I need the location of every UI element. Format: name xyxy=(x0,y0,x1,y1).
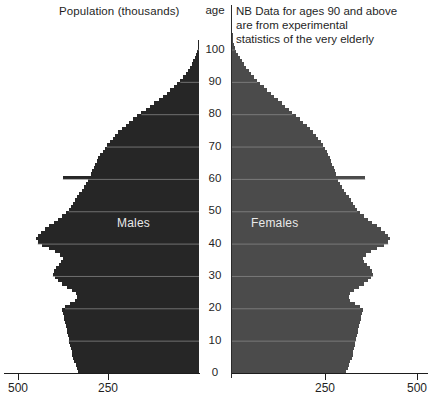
age-tick-80: 80 xyxy=(199,107,231,119)
age-axis-column xyxy=(199,0,231,378)
left-axis-line xyxy=(4,373,200,374)
left-250-label: 250 xyxy=(98,381,118,395)
age-tick-20: 20 xyxy=(199,301,231,313)
age-tick-40: 40 xyxy=(199,237,231,249)
left-250-tick xyxy=(108,374,109,380)
right-500-label: 500 xyxy=(407,381,427,395)
bars-silhouette xyxy=(36,33,199,373)
left-500-label: 500 xyxy=(8,381,28,395)
series-label-females: Females xyxy=(251,216,298,230)
age-axis-header: age xyxy=(199,4,231,16)
age-tick-0: 0 xyxy=(199,366,231,378)
age-tick-90: 90 xyxy=(199,75,231,87)
age-tick-10: 10 xyxy=(199,334,231,346)
females-bars-svg xyxy=(232,5,436,373)
bars-silhouette xyxy=(232,33,390,373)
males-bars-panel xyxy=(0,5,199,373)
age-tick-100: 100 xyxy=(199,43,231,55)
left-500-tick xyxy=(18,374,19,380)
population-pyramid-chart: Population (thousands) NB Data for ages … xyxy=(0,0,436,403)
age-tick-50: 50 xyxy=(199,204,231,216)
right-250-tick xyxy=(325,374,326,380)
age-tick-60: 60 xyxy=(199,172,231,184)
females-bars-panel xyxy=(232,5,436,373)
age-tick-30: 30 xyxy=(199,269,231,281)
series-label-males: Males xyxy=(117,216,150,230)
right-axis-line xyxy=(232,373,428,374)
males-bars-svg xyxy=(0,5,199,373)
age-tick-70: 70 xyxy=(199,140,231,152)
right-250-label: 250 xyxy=(315,381,335,395)
right-500-tick xyxy=(417,374,418,380)
